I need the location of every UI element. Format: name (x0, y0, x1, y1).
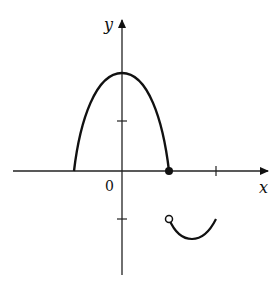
y-axis-label: y (103, 15, 114, 34)
function-graph: y x 0 (0, 0, 278, 295)
open-endpoint (166, 216, 173, 223)
origin-label: 0 (105, 178, 114, 194)
lower-arc-curve (169, 219, 216, 239)
x-axis-label: x (259, 178, 268, 197)
closed-endpoint (165, 167, 173, 175)
